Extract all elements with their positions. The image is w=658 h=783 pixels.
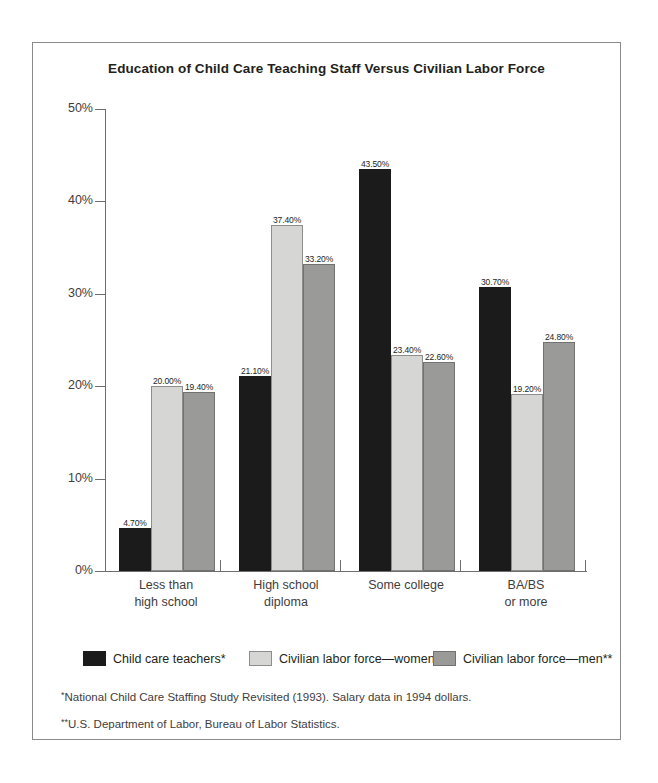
bar[interactable]: 19.20%	[511, 394, 543, 571]
footnotes: *National Child Care Staffing Study Revi…	[61, 688, 606, 742]
bar[interactable]: 30.70%	[479, 287, 511, 571]
legend-label: Child care teachers*	[113, 652, 226, 666]
bar[interactable]: 19.40%	[183, 392, 215, 571]
footnote-text: U.S. Department of Labor, Bureau of Labo…	[68, 718, 340, 730]
bar[interactable]: 23.40%	[391, 355, 423, 571]
legend-item[interactable]: Civilian labor force—women**	[249, 651, 444, 666]
y-axis-tick	[95, 109, 106, 110]
category-label-line: High school	[226, 577, 346, 594]
bar-group: 30.70%19.20%24.80%	[466, 109, 586, 571]
bar-group: 43.50%23.40%22.60%	[346, 109, 466, 571]
bar-group: 21.10%37.40%33.20%	[226, 109, 346, 571]
category-label-line: or more	[466, 594, 586, 611]
y-axis-tick	[95, 479, 106, 480]
category-label-line: diploma	[226, 594, 346, 611]
x-axis-line	[106, 571, 587, 572]
x-axis-category-label: BA/BSor more	[466, 577, 586, 611]
bar-value-label: 22.60%	[425, 352, 453, 362]
y-axis-tick-label: 0%	[41, 563, 93, 577]
footnote-text: National Child Care Staffing Study Revis…	[65, 691, 472, 703]
bar-value-label: 37.40%	[273, 215, 301, 225]
bar[interactable]: 33.20%	[303, 264, 335, 571]
y-axis-tick-label: 20%	[41, 378, 93, 392]
bar-value-label: 30.70%	[481, 277, 509, 287]
x-axis-group-tick	[585, 560, 586, 571]
y-axis-tick	[95, 571, 106, 572]
category-label-line: BA/BS	[466, 577, 586, 594]
bar[interactable]: 24.80%	[543, 342, 575, 571]
x-axis-group-tick	[220, 560, 221, 571]
y-axis-tick	[95, 294, 106, 295]
bar[interactable]: 43.50%	[359, 169, 391, 571]
legend-swatch	[83, 651, 106, 666]
category-label-line: Less than	[106, 577, 226, 594]
x-axis-category-label: Some college	[346, 577, 466, 594]
chart-title: Education of Child Care Teaching Staff V…	[33, 61, 620, 76]
bar-value-label: 19.40%	[185, 382, 213, 392]
x-axis-category-label: High schooldiploma	[226, 577, 346, 611]
x-axis-category-labels: Less thanhigh schoolHigh schooldiplomaSo…	[106, 577, 587, 623]
legend-item[interactable]: Civilian labor force—men**	[433, 651, 612, 666]
y-axis-tick	[95, 201, 106, 202]
bar-value-label: 24.80%	[545, 332, 573, 342]
plot-area: 4.70%20.00%19.40%21.10%37.40%33.20%43.50…	[106, 109, 586, 571]
footnote: **U.S. Department of Labor, Bureau of La…	[61, 715, 606, 731]
bar[interactable]: 22.60%	[423, 362, 455, 571]
bar[interactable]: 21.10%	[239, 376, 271, 571]
legend-swatch	[433, 651, 456, 666]
y-axis-tick-label: 50%	[41, 101, 93, 115]
bar-value-label: 23.40%	[393, 345, 421, 355]
y-axis-tick-label: 10%	[41, 471, 93, 485]
bar-group: 4.70%20.00%19.40%	[106, 109, 226, 571]
bar-value-label: 21.10%	[241, 366, 269, 376]
bar-value-label: 33.20%	[305, 254, 333, 264]
x-axis-category-label: Less thanhigh school	[106, 577, 226, 611]
bar-value-label: 20.00%	[153, 376, 181, 386]
category-label-line: high school	[106, 594, 226, 611]
footnote: *National Child Care Staffing Study Revi…	[61, 688, 606, 704]
chart-legend: Child care teachers*Civilian labor force…	[61, 651, 601, 673]
y-axis-labels: 50%40%30%20%10%0%	[33, 43, 93, 603]
category-label-line: Some college	[346, 577, 466, 594]
bar[interactable]: 37.40%	[271, 225, 303, 571]
legend-label: Civilian labor force—men**	[463, 652, 612, 666]
y-axis-tick-label: 30%	[41, 286, 93, 300]
y-axis-tick-label: 40%	[41, 193, 93, 207]
bar-value-label: 4.70%	[123, 518, 147, 528]
legend-item[interactable]: Child care teachers*	[83, 651, 226, 666]
chart-page-frame: Education of Child Care Teaching Staff V…	[32, 42, 621, 740]
legend-label: Civilian labor force—women**	[279, 652, 444, 666]
y-axis-tick	[95, 386, 106, 387]
bar[interactable]: 20.00%	[151, 386, 183, 571]
legend-swatch	[249, 651, 272, 666]
bar-value-label: 19.20%	[513, 384, 541, 394]
bar-value-label: 43.50%	[361, 159, 389, 169]
bar[interactable]: 4.70%	[119, 528, 151, 571]
x-axis-group-tick	[460, 560, 461, 571]
x-axis-group-tick	[340, 560, 341, 571]
footnote-marker: **	[61, 717, 68, 727]
